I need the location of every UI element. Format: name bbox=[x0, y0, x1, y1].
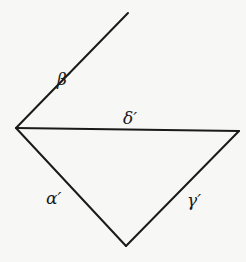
edge-delta bbox=[16, 128, 239, 131]
label-gamma: γ′ bbox=[187, 190, 201, 210]
label-beta: β′ bbox=[56, 69, 71, 89]
edge-gamma bbox=[126, 131, 239, 246]
edge-beta bbox=[16, 13, 128, 128]
line-diagram: β′ δ′ α′ γ′ bbox=[0, 0, 246, 262]
label-delta: δ′ bbox=[123, 108, 137, 128]
edge-alpha bbox=[16, 128, 126, 246]
label-alpha: α′ bbox=[46, 188, 61, 208]
